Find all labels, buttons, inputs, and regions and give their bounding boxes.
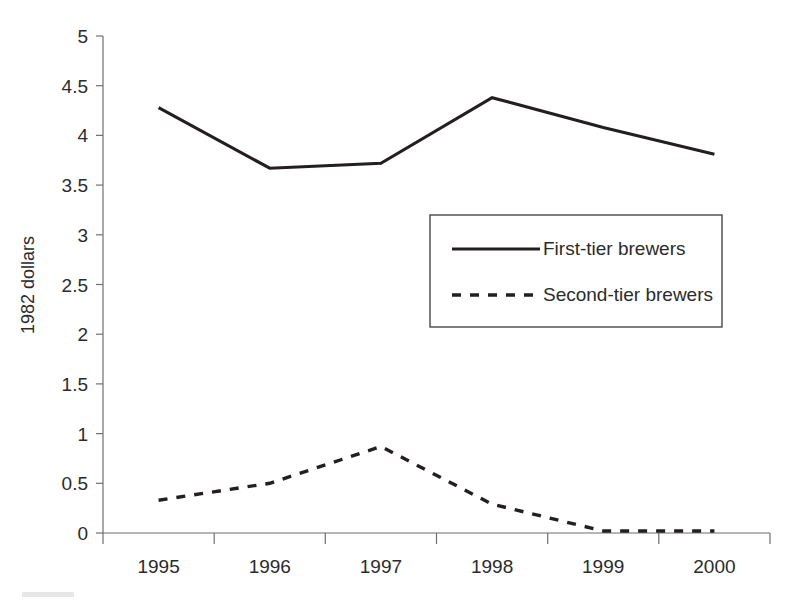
y-tick-label: 0 [77, 523, 88, 544]
line-chart: 5 4.5 4 3.5 3 2.5 2 1.5 1 0.5 0 1982 dol… [0, 0, 799, 610]
legend-item-label: First-tier brewers [543, 238, 686, 259]
chart-page: 5 4.5 4 3.5 3 2.5 2 1.5 1 0.5 0 1982 dol… [0, 0, 799, 610]
y-tick-label: 2 [77, 324, 88, 345]
y-tick-label: 5 [77, 26, 88, 47]
y-axis-title: 1982 dollars [18, 236, 38, 334]
x-tick-label: 1996 [249, 556, 291, 577]
y-tick-label: 3 [77, 225, 88, 246]
y-tick-label: 0.5 [62, 473, 88, 494]
legend-item-label: Second-tier brewers [543, 284, 713, 305]
y-tick-label: 1 [77, 424, 88, 445]
y-tick-label: 3.5 [62, 175, 88, 196]
x-tick-label: 2000 [693, 556, 735, 577]
caption-artifact [22, 592, 74, 597]
y-tick-label: 1.5 [62, 374, 88, 395]
x-tick-label: 1997 [360, 556, 402, 577]
y-tick-label: 4.5 [62, 76, 88, 97]
x-tick-label: 1998 [471, 556, 513, 577]
x-tick-label: 1999 [582, 556, 624, 577]
legend-box [430, 215, 722, 327]
x-tick-label: 1995 [137, 556, 179, 577]
y-tick-label: 4 [77, 125, 88, 146]
y-tick-label: 2.5 [62, 275, 88, 296]
chart-legend: First-tier brewers Second-tier brewers [430, 215, 722, 327]
